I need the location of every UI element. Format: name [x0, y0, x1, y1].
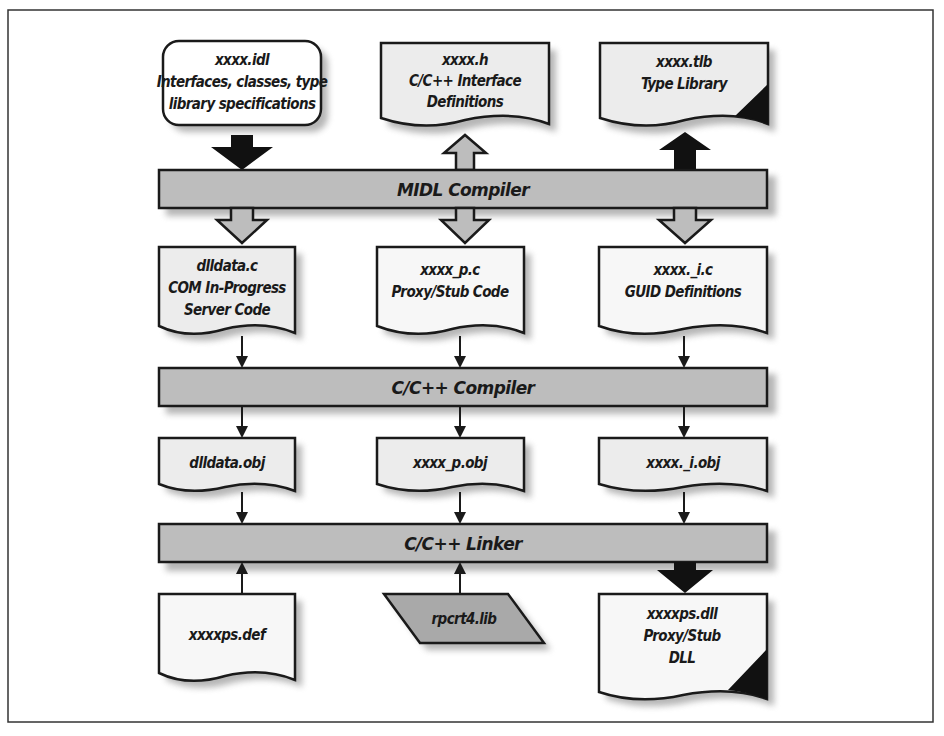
dlldata-c-filename: dlldata.c	[197, 257, 259, 275]
idl-source-node: xxxx.idl Interfaces, classes, type libra…	[157, 41, 328, 132]
proxy-c-desc: Proxy/Stub Code	[392, 283, 509, 301]
idl-desc-line1: Interfaces, classes, type	[157, 73, 328, 91]
header-desc-line1: C/C++ Interface	[409, 72, 522, 90]
lib-file-node: rpcrt4.lib	[384, 594, 551, 650]
idl-filename: xxxx.idl	[214, 51, 270, 69]
header-file-node: xxxx.h C/C++ Interface Definitions	[381, 43, 556, 134]
dll-output-node: xxxxps.dll Proxy/Stub DLL	[599, 594, 774, 706]
header-midl-arrow-up	[444, 135, 486, 170]
midl-compiler-label: MIDL Compiler	[397, 180, 531, 200]
guid-c-node: xxxx._i.c GUID Definitions	[599, 247, 774, 341]
idl-to-midl-arrow	[211, 135, 273, 170]
def-file-node: xxxxps.def	[159, 594, 302, 688]
dlldata-c-desc-line1: COM In-Progress	[168, 279, 286, 297]
idl-desc-line2: library specifications	[169, 95, 316, 113]
proxy-obj-node: xxxx_p.obj	[377, 438, 531, 498]
sources-to-compiler-arrows	[236, 336, 690, 368]
proxy-obj-label: xxxx_p.obj	[412, 454, 488, 472]
linker-label: C/C++ Linker	[404, 534, 524, 554]
type-library-node: xxxx.tlb Type Library	[600, 43, 775, 134]
guid-obj-node: xxxx._i.obj	[599, 438, 774, 498]
midl-build-diagram: xxxx.idl Interfaces, classes, type libra…	[0, 0, 944, 736]
proxy-c-node: xxxx_p.c Proxy/Stub Code	[377, 247, 531, 341]
guid-obj-label: xxxx._i.obj	[645, 454, 720, 472]
dll-filename: xxxxps.dll	[646, 605, 719, 623]
tlb-desc: Type Library	[641, 75, 729, 93]
midl-to-tlb-arrow	[659, 132, 711, 170]
dll-desc-line2: DLL	[669, 649, 696, 667]
objects-to-linker-arrows	[236, 492, 690, 524]
dlldata-c-node: dlldata.c COM In-Progress Server Code	[159, 247, 302, 341]
proxy-c-filename: xxxx_p.c	[419, 261, 480, 279]
guid-c-desc: GUID Definitions	[625, 283, 742, 301]
dlldata-obj-label: dlldata.obj	[189, 454, 265, 472]
def-file-label: xxxxps.def	[188, 626, 268, 644]
header-filename: xxxx.h	[441, 51, 488, 69]
dlldata-c-desc-line2: Server Code	[184, 301, 271, 319]
dlldata-obj-node: dlldata.obj	[159, 438, 302, 498]
guid-c-filename: xxxx._i.c	[652, 261, 713, 279]
header-desc-line2: Definitions	[427, 93, 504, 111]
cc-compiler-label: C/C++ Compiler	[392, 378, 537, 398]
lib-file-label: rpcrt4.lib	[432, 610, 498, 628]
dll-desc-line1: Proxy/Stub	[643, 627, 721, 645]
tlb-filename: xxxx.tlb	[655, 53, 713, 71]
